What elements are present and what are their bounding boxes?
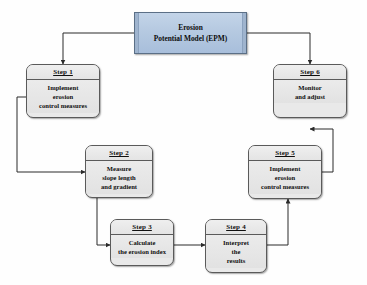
connector-epm-to-step6 [247,33,310,64]
step6-line1: Monitor [276,83,344,92]
flowchart-diagram: Erosion Potential Model (EPM) Step 1 Imp… [0,0,367,285]
step5-line2: erosion [251,173,319,182]
epm-label: Erosion Potential Model (EPM) [154,22,227,44]
step2-line1: Measure [88,164,150,173]
connector-step4-to-step5 [267,199,288,245]
step1-line1: Implement [29,83,97,92]
connector-epm-to-step1 [63,33,134,64]
step4-line2: the [208,247,264,256]
step5-line1: Implement [251,164,319,173]
step1-line2: erosion [29,92,97,101]
epm-label-line2: Potential Model (EPM) [154,33,227,44]
node-step5[interactable]: Step 5 Implement erosion control measure… [248,145,322,199]
node-step6[interactable]: Step 6 Monitor and adjust [273,64,347,118]
step4-body: Interpret the results [206,235,266,268]
step2-body: Measure slope length and gradient [86,161,152,194]
step3-line1: Calculate [113,238,171,247]
step5-line3: control measures [251,182,319,191]
step3-body: Calculate the erosion index [111,235,173,259]
step5-body: Implement erosion control measures [249,161,321,194]
step4-line3: results [208,256,264,265]
step4-line1: Interpret [208,238,264,247]
step6-header: Step 6 [274,65,346,80]
step2-header: Step 2 [86,146,152,161]
node-step4[interactable]: Step 4 Interpret the results [205,219,267,273]
epm-label-line1: Erosion [154,22,227,33]
step1-line3: control measures [29,101,97,110]
step1-header: Step 1 [27,65,99,80]
step2-line3: and gradient [88,182,150,191]
connector-step2-to-step3 [97,198,110,245]
step3-line2: the erosion index [113,247,171,256]
step5-header: Step 5 [249,146,321,161]
step6-body: Monitor and adjust [274,80,346,104]
step1-body: Implement erosion control measures [27,80,99,113]
step4-header: Step 4 [206,220,266,235]
epm-right-edge-band [242,13,246,53]
step2-line2: slope length [88,173,150,182]
node-step3[interactable]: Step 3 Calculate the erosion index [110,219,174,266]
node-step2[interactable]: Step 2 Measure slope length and gradient [85,145,153,198]
step6-line2: and adjust [276,92,344,101]
step3-header: Step 3 [111,220,173,235]
epm-left-edge-band [135,13,139,53]
erosion-potential-model-box[interactable]: Erosion Potential Model (EPM) [134,12,247,54]
node-step1[interactable]: Step 1 Implement erosion control measure… [26,64,100,118]
